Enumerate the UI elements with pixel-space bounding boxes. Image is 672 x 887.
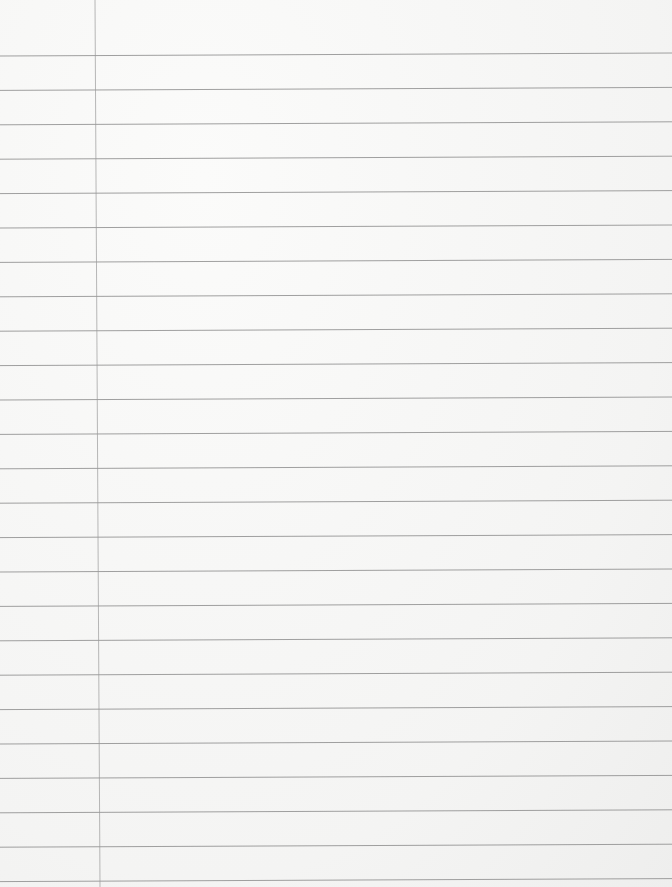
ruled-line <box>0 191 672 194</box>
ruled-line <box>0 879 672 882</box>
ruled-line <box>0 638 672 641</box>
ruled-line <box>0 122 672 125</box>
ruled-line <box>0 844 672 847</box>
ruled-line <box>0 259 672 262</box>
ruled-line <box>0 363 672 366</box>
ruled-line <box>0 431 672 434</box>
ruled-paper-sheet <box>0 0 672 887</box>
ruled-line <box>0 328 672 331</box>
ruled-line <box>0 397 672 400</box>
ruled-line <box>0 225 672 228</box>
ruled-line <box>0 569 672 572</box>
margin-line <box>95 0 100 887</box>
ruled-line <box>0 87 672 90</box>
ruled-line <box>0 672 672 675</box>
ruled-line <box>0 500 672 503</box>
ruled-line <box>0 741 672 744</box>
ruled-line <box>0 156 672 159</box>
ruled-line <box>0 294 672 297</box>
ruled-line <box>0 775 672 778</box>
ruled-line <box>0 466 672 469</box>
ruled-lines <box>0 0 672 887</box>
ruled-line <box>0 603 672 606</box>
ruled-line <box>0 810 672 813</box>
ruled-line <box>0 535 672 538</box>
ruled-line <box>0 707 672 710</box>
ruled-line <box>0 53 672 56</box>
